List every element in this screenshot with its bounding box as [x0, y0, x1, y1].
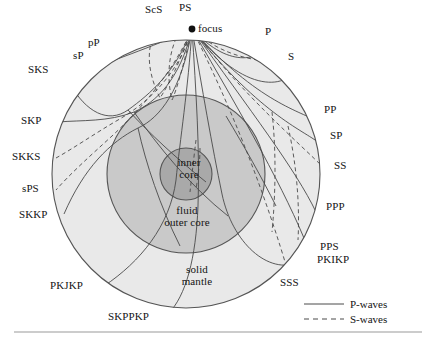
ray-label-SSS: SSS: [280, 277, 299, 289]
ray-label-sPS: sPS: [22, 183, 39, 195]
solid-mantle-label: solid mantle: [164, 264, 230, 287]
ray-label-PKJKP: PKJKP: [50, 280, 83, 292]
ray-label-PP: PP: [324, 104, 336, 116]
ray-label-SKKS: SKKS: [12, 151, 41, 163]
ray-label-SS: SS: [334, 160, 346, 172]
ray-label-PPP: PPP: [326, 201, 345, 213]
legend-sample-lines: [304, 304, 344, 319]
legend-s-waves-label: S-waves: [350, 313, 387, 325]
ray-label-PPS: PPS: [320, 241, 339, 253]
focus-label: focus: [198, 23, 222, 35]
outer-core-label: fluid outer core: [142, 205, 232, 228]
focus-point: [189, 26, 196, 33]
ray-label-PS: PS: [179, 2, 191, 14]
ray-label-SKP: SKP: [21, 115, 41, 127]
ray-label-S: S: [288, 51, 294, 63]
ray-label-PKIKP: PKIKP: [317, 254, 349, 266]
ray-label-SKKP: SKKP: [19, 209, 48, 221]
ray-label-SKS: SKS: [28, 64, 48, 76]
ray-label-SKPPKP: SKPPKP: [108, 311, 149, 323]
ray-label-pP: pP: [88, 37, 100, 49]
legend-p-waves-label: P-waves: [350, 298, 387, 310]
ray-label-SP: SP: [330, 130, 342, 142]
ray-label-P: P: [265, 26, 271, 38]
inner-core-label: inner core: [161, 157, 217, 180]
ray-label-ScS: ScS: [145, 4, 162, 16]
ray-label-sP: sP: [73, 50, 84, 62]
